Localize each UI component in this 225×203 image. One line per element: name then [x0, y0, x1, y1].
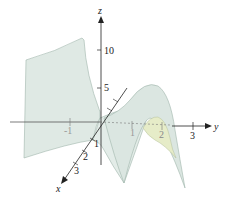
x-tick [113, 99, 118, 102]
z-tick-label-10: 10 [104, 45, 114, 56]
y-axis-label: y [213, 121, 219, 132]
z-axis-label: z [97, 5, 102, 16]
x-tick-label-3: 3 [74, 165, 79, 176]
y-tick-label-1: 1 [130, 127, 135, 138]
z-tick-label-5: 5 [104, 82, 109, 93]
x-tick-label-1: 1 [94, 138, 99, 149]
y-tick-label-neg1: -1 [64, 125, 72, 136]
x-tick-label-2: 2 [83, 151, 88, 162]
x-axis-arrow-icon [61, 176, 68, 184]
y-axis-arrow-icon [205, 123, 212, 129]
z-axis-arrow-icon [98, 16, 104, 23]
surface-plot: z 10 5 y -1 1 2 3 x 1 2 3 [0, 0, 225, 203]
y-tick-label-2: 2 [159, 129, 164, 140]
surface-left-sheet [24, 38, 100, 158]
x-tick [107, 108, 112, 111]
surface-right-arch [104, 85, 185, 188]
y-tick-label-3: 3 [190, 130, 195, 141]
x-axis-label: x [55, 183, 61, 194]
